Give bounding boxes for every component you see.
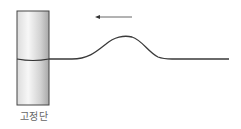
fixed-end-post bbox=[17, 11, 49, 105]
rope-wave-pulse bbox=[49, 36, 229, 59]
left-arrow-icon bbox=[95, 15, 132, 19]
fixed-end-label: 고정단 bbox=[12, 108, 56, 123]
